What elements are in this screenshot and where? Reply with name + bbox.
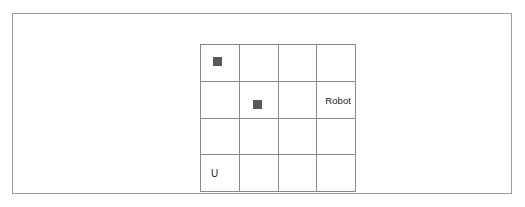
outer-frame: Robot U <box>12 13 512 194</box>
block-marker-icon <box>253 100 262 109</box>
grid-cell-r4c2[interactable] <box>240 155 279 192</box>
grid-cell-r4c3[interactable] <box>279 155 318 192</box>
grid-cell-r2c4[interactable]: Robot <box>317 82 356 119</box>
grid-cell-r1c3[interactable] <box>279 45 318 82</box>
grid-cell-r3c2[interactable] <box>240 119 279 156</box>
grid-cell-r3c4[interactable] <box>317 119 356 156</box>
block-marker-icon <box>213 57 222 66</box>
grid-cell-r2c3[interactable] <box>279 82 318 119</box>
grid-cell-r3c3[interactable] <box>279 119 318 156</box>
grid-cell-r1c1[interactable] <box>201 45 240 82</box>
grid-cell-r4c1[interactable]: U <box>201 155 240 192</box>
grid-cell-r4c4[interactable] <box>317 155 356 192</box>
u-label: U <box>211 169 218 179</box>
robot-grid-world[interactable]: Robot U <box>200 44 356 192</box>
grid-cell-r3c1[interactable] <box>201 119 240 156</box>
grid-cell-r2c2[interactable] <box>240 82 279 119</box>
grid-cell-r1c2[interactable] <box>240 45 279 82</box>
grid-cell-r1c4[interactable] <box>317 45 356 82</box>
grid-cell-r2c1[interactable] <box>201 82 240 119</box>
robot-label: Robot <box>325 96 351 106</box>
